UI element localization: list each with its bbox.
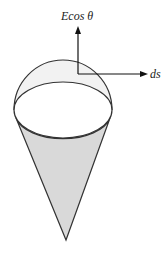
gaussian-cone-diagram: Ecos θ ds xyxy=(0,0,167,267)
area-vector-arrowhead-icon xyxy=(140,71,148,77)
field-vector-arrowhead-icon xyxy=(75,26,81,34)
area-element-label: ds xyxy=(150,67,161,81)
base-ellipse xyxy=(14,82,112,138)
field-component-label: Ecos θ xyxy=(60,9,93,23)
